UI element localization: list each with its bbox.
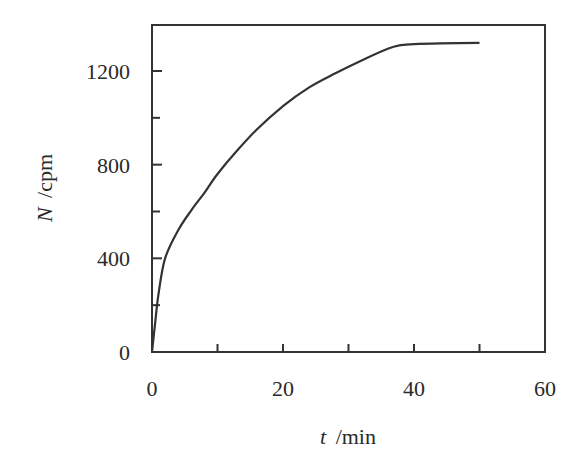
- x-axis-unit: /min: [336, 424, 376, 449]
- x-tick-label: 20: [272, 376, 294, 401]
- y-axis-unit: /cpm: [32, 154, 57, 198]
- x-tick-label: 0: [147, 376, 158, 401]
- y-tick-label: 1200: [86, 59, 130, 84]
- y-tick-label: 800: [97, 153, 130, 178]
- plot-frame: [152, 25, 545, 352]
- axis-ticks: [152, 71, 480, 352]
- x-tick-label: 40: [403, 376, 425, 401]
- x-axis-label: t /min: [320, 424, 376, 449]
- y-axis-variable: N: [32, 206, 57, 223]
- tick-labels: 020406004008001200: [86, 59, 556, 401]
- x-axis-variable: t: [320, 424, 327, 449]
- x-tick-label: 60: [534, 376, 556, 401]
- data-line: [152, 43, 480, 352]
- y-tick-label: 0: [119, 340, 130, 365]
- y-tick-label: 400: [97, 246, 130, 271]
- y-axis-label: N /cpm: [32, 154, 57, 223]
- plot-border: [152, 25, 545, 352]
- line-chart: 020406004008001200 t /min N /cpm: [0, 0, 584, 474]
